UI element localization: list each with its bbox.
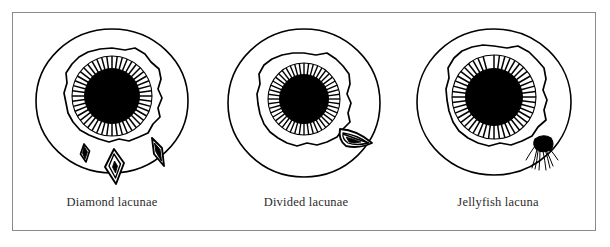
pupil-disc: [85, 69, 140, 124]
panel-caption-diamond: Diamond lacunae: [15, 194, 209, 210]
divided-lacuna-right: [340, 129, 372, 147]
figure-root: Diamond lacunae: [0, 0, 610, 247]
panel-caption-divided: Divided lacunae: [209, 194, 403, 210]
pupil-disc: [280, 75, 329, 124]
iris-diagram-jellyfish: [401, 13, 595, 196]
jellyfish-lacuna: [526, 136, 558, 170]
figure-frame: Diamond lacunae: [12, 12, 596, 231]
panel-diamond-lacunae: Diamond lacunae: [15, 13, 209, 230]
diamond-lacuna-center: [105, 149, 124, 184]
iris-diagram-divided: [209, 13, 403, 196]
panel-caption-jellyfish: Jellyfish lacuna: [401, 194, 595, 210]
iris-diagram-diamond: [15, 13, 209, 196]
panel-jellyfish-lacuna: Jellyfish lacuna: [401, 13, 595, 230]
panel-divided-lacunae: Divided lacunae: [209, 13, 403, 230]
diamond-lacuna-left: [81, 144, 90, 162]
pupil-disc: [466, 69, 523, 126]
